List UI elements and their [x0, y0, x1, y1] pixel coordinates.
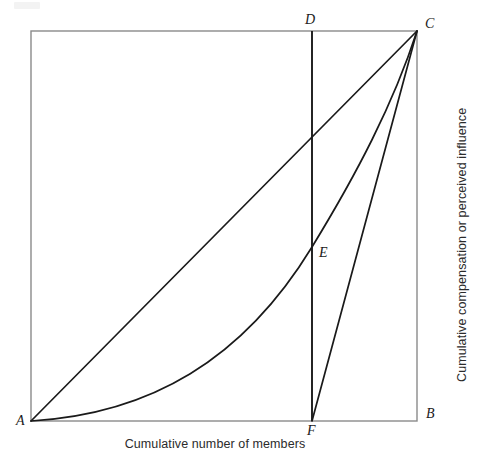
vertex-label-C: C	[425, 16, 435, 31]
vertex-label-A: A	[15, 413, 25, 428]
vertex-label-D: D	[304, 12, 315, 27]
lorenz-curve-figure: A B C D E F Cumulative number of members…	[0, 0, 482, 460]
equality-line-AC	[31, 31, 417, 421]
x-axis-label: Cumulative number of members	[0, 437, 430, 451]
y-axis-label: Cumulative compensation or perceived inf…	[455, 108, 469, 382]
segment-FC	[312, 31, 417, 421]
vertex-label-B: B	[426, 406, 435, 421]
scan-artifact	[14, 2, 40, 9]
vertex-label-E: E	[318, 245, 328, 260]
vertex-label-F: F	[306, 423, 316, 438]
diagram-canvas: A B C D E F	[0, 0, 482, 460]
